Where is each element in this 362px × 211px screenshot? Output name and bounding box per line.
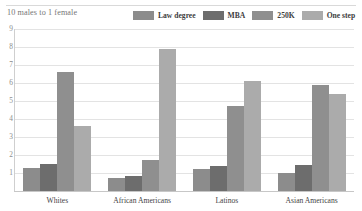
x-axis-category-labels: WhitesAfrican AmericansLatinosAsian Amer… — [15, 196, 354, 210]
legend-label: MBA — [228, 11, 246, 20]
plot-area: 123456789 — [0, 24, 362, 196]
bar[interactable] — [193, 169, 210, 191]
bar[interactable] — [57, 72, 74, 191]
legend-swatch-icon — [302, 11, 323, 20]
bar[interactable] — [312, 85, 329, 191]
legend-label: One step — [327, 11, 355, 20]
legend-item[interactable]: Law degree — [133, 11, 196, 20]
y-axis-tick-label: 8 — [2, 43, 13, 51]
bar[interactable] — [278, 173, 295, 191]
bar[interactable] — [159, 49, 176, 191]
bar[interactable] — [295, 165, 312, 191]
bar[interactable] — [108, 178, 125, 192]
bar-group — [193, 24, 261, 191]
y-axis-tick-label: 9 — [2, 25, 13, 33]
x-axis-category-label: Latinos — [185, 196, 270, 206]
chart-legend: Law degreeMBA250KOne step — [133, 9, 362, 21]
chart-title: 10 males to 1 female — [7, 8, 77, 18]
bar[interactable] — [227, 106, 244, 191]
y-axis-tick-label: 7 — [2, 61, 13, 69]
x-axis-line — [14, 191, 354, 192]
bar[interactable] — [142, 160, 159, 192]
bar[interactable] — [23, 168, 40, 191]
y-axis-tick-label: 6 — [2, 79, 13, 87]
legend-label: Law degree — [158, 11, 196, 20]
bar[interactable] — [210, 166, 227, 191]
y-axis-tick-label: 5 — [2, 97, 13, 105]
top-divider — [6, 5, 356, 6]
bar-group — [108, 24, 176, 191]
bar-groups — [15, 24, 354, 191]
legend-swatch-icon — [133, 11, 154, 20]
bar[interactable] — [125, 176, 142, 191]
x-axis-category-label: African Americans — [100, 196, 185, 206]
y-axis-tick-label: 4 — [2, 115, 13, 123]
bar-group — [278, 24, 346, 191]
bar-group — [23, 24, 91, 191]
legend-item[interactable]: MBA — [203, 11, 246, 20]
legend-swatch-icon — [203, 11, 224, 20]
bar-chart: 10 males to 1 female Law degreeMBA250KOn… — [0, 0, 362, 211]
y-axis-tick-label: 3 — [2, 133, 13, 141]
bar[interactable] — [329, 94, 346, 191]
x-axis-category-label: Asian Americans — [269, 196, 354, 206]
legend-swatch-icon — [252, 11, 273, 20]
legend-item[interactable]: One step — [302, 11, 355, 20]
x-axis-category-label: Whites — [15, 196, 100, 206]
legend-item[interactable]: 250K — [252, 11, 294, 20]
y-axis-tick-label: 2 — [2, 151, 13, 159]
bar[interactable] — [244, 81, 261, 191]
bar[interactable] — [40, 164, 57, 191]
bar[interactable] — [74, 126, 91, 191]
legend-label: 250K — [277, 11, 294, 20]
y-axis-tick-label: 1 — [2, 169, 13, 177]
